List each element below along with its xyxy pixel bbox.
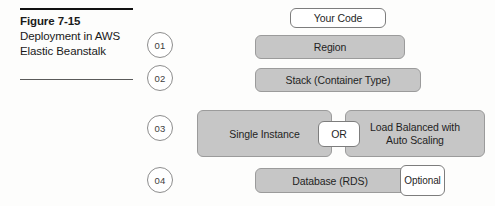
box-optional: Optional <box>400 165 445 196</box>
box-load-balanced-line1: Load Balanced with <box>370 121 460 134</box>
step-marker-03: 03 <box>147 115 173 141</box>
caption-rule-bottom <box>20 79 133 80</box>
box-or-connector: OR <box>318 121 360 147</box>
figure-caption-description: Deployment in AWS Elastic Beanstalk <box>20 29 133 59</box>
caption-rule-top <box>20 8 133 10</box>
step-marker-01: 01 <box>147 32 173 58</box>
figure-caption-title: Figure 7-15 <box>20 14 133 29</box>
step-marker-02: 02 <box>147 65 173 91</box>
box-load-balanced-line2: Auto Scaling <box>370 134 460 147</box>
box-your-code: Your Code <box>290 8 386 28</box>
box-stack-container-type: Stack (Container Type) <box>255 68 421 92</box>
box-region: Region <box>255 35 405 59</box>
figure-container: Figure 7-15 Deployment in AWS Elastic Be… <box>0 0 495 206</box>
box-single-instance: Single Instance <box>197 110 332 157</box>
box-load-balanced: Load Balanced with Auto Scaling <box>345 110 485 157</box>
figure-caption: Figure 7-15 Deployment in AWS Elastic Be… <box>20 8 133 59</box>
box-database-label: Database (RDS) <box>256 169 404 192</box>
step-marker-04: 04 <box>147 167 173 193</box>
